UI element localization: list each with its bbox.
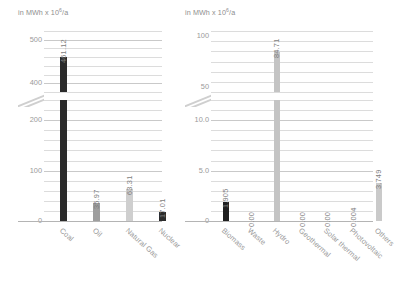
chart-panel-left: in MWh x 106/a 4005000100200461.12Coal35… bbox=[0, 0, 176, 294]
x-category-label: Natural Gas bbox=[123, 226, 159, 260]
chart-panel-right: in MWh x 106/a 5010005.010.01.905Biomass… bbox=[166, 0, 384, 294]
gridline-major bbox=[211, 171, 373, 172]
x-category-label: Biomass bbox=[220, 226, 248, 252]
gridline-minor bbox=[211, 161, 373, 162]
bar-value-label: 0.00 bbox=[298, 212, 307, 227]
y-tick-label: 400 bbox=[18, 78, 42, 87]
bar-segment-lower bbox=[60, 100, 67, 221]
y-tick-label: 100 bbox=[18, 166, 42, 175]
bar-value-label: 1.905 bbox=[221, 188, 230, 208]
x-category-label: Waste bbox=[245, 226, 267, 247]
gridline-minor bbox=[211, 140, 373, 141]
axis-break-symbol bbox=[185, 93, 211, 107]
bar-value-label: 0.00 bbox=[247, 212, 256, 227]
bar-value-label: 84.71 bbox=[272, 38, 281, 58]
gridline-minor bbox=[211, 130, 373, 131]
gridline-minor bbox=[211, 181, 373, 182]
y-tick-label: 50 bbox=[185, 82, 209, 91]
gridline-minor bbox=[211, 92, 373, 93]
x-category-label: Oil bbox=[90, 226, 103, 239]
axis-break-symbol bbox=[18, 93, 44, 107]
x-category-label: Others bbox=[373, 226, 396, 248]
x-axis-line bbox=[18, 221, 162, 222]
y-tick-label: 5.0 bbox=[185, 166, 209, 175]
gridline-minor bbox=[211, 150, 373, 151]
gridline-minor bbox=[211, 51, 373, 52]
gridline-minor bbox=[211, 110, 373, 111]
plot-area-left: 4005000100200461.12Coal35.97Oil63.31Natu… bbox=[0, 0, 176, 294]
gridline-minor bbox=[211, 100, 373, 101]
gridline-minor bbox=[211, 31, 373, 32]
y-tick-label: 200 bbox=[18, 115, 42, 124]
y-tick-label: 500 bbox=[18, 35, 42, 44]
x-category-label: Hydro bbox=[271, 226, 292, 246]
gridline-minor bbox=[211, 201, 373, 202]
x-axis-line bbox=[185, 221, 373, 222]
bar-value-label: 63.31 bbox=[125, 176, 134, 196]
gridline-minor bbox=[211, 62, 373, 63]
bar-value-label: 35.97 bbox=[92, 189, 101, 209]
gridline-minor bbox=[211, 191, 373, 192]
gridline-minor bbox=[211, 82, 373, 83]
gridline-minor bbox=[44, 92, 162, 93]
gridline-minor bbox=[211, 72, 373, 73]
bar-value-label: 3.749 bbox=[374, 170, 383, 190]
y-tick-label: 10.0 bbox=[185, 115, 209, 124]
bar-segment-lower bbox=[274, 100, 280, 221]
gridline-minor bbox=[211, 41, 373, 42]
plot-area-right: 5010005.010.01.905Biomass0.00Waste84.71H… bbox=[166, 0, 384, 294]
bar-value-label: 461.12 bbox=[59, 39, 68, 63]
bar-value-label: 0.004 bbox=[349, 207, 358, 227]
x-category-label: Coal bbox=[57, 226, 75, 243]
gridline-major bbox=[211, 120, 373, 121]
gridline-minor bbox=[44, 31, 162, 32]
y-tick-label: 100 bbox=[185, 31, 209, 40]
